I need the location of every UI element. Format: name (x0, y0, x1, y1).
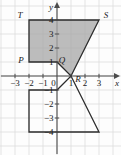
point-label-p: P (17, 55, 24, 65)
y-tick-label--3: −3 (44, 113, 54, 123)
y-tick-label-3: 3 (49, 29, 54, 39)
y-tick-label--4: −4 (44, 127, 54, 137)
y-tick-label--1: −1 (44, 85, 54, 95)
x-tick-label-3: 3 (97, 78, 102, 88)
coordinate-plane-svg: −3−2−101234321−1−2−3−4xyTSQRP (0, 0, 121, 155)
x-tick-label--3: −3 (10, 78, 20, 88)
x-tick-label--2: −2 (24, 78, 34, 88)
point-label-q: Q (59, 55, 66, 65)
y-tick-label--2: −2 (44, 99, 54, 109)
point-label-t: T (17, 10, 23, 20)
y-axis-arrowhead (54, 2, 60, 8)
x-axis-name-label: x (114, 78, 119, 88)
y-tick-label-4: 4 (49, 15, 54, 25)
point-label-r: R (74, 74, 81, 84)
x-tick-label-1: 1 (69, 78, 74, 88)
point-label-s: S (104, 10, 109, 20)
y-tick-label-2: 2 (49, 43, 54, 53)
y-tick-label-1: 1 (49, 57, 54, 67)
x-tick-label-2: 2 (83, 78, 88, 88)
coordinate-figure: −3−2−101234321−1−2−3−4xyTSQRP (0, 0, 121, 155)
y-axis-name-label: y (48, 2, 53, 12)
